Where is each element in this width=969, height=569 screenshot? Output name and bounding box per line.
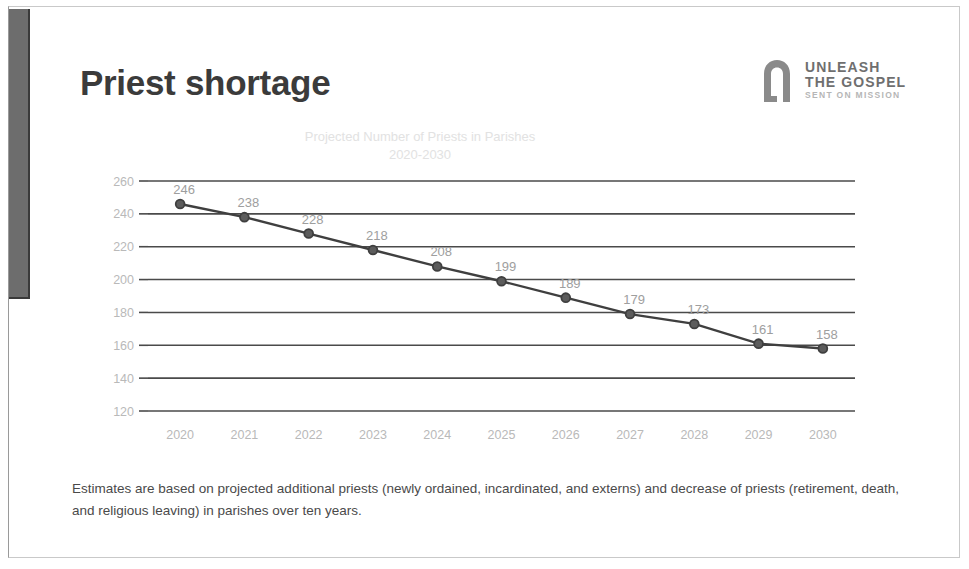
data-point-label: 246 bbox=[173, 182, 195, 197]
data-point-marker bbox=[690, 320, 699, 329]
x-axis-tick-label: 2020 bbox=[166, 428, 194, 442]
slide-canvas: Priest shortage UNLEASH THE GOSPEL SENT … bbox=[0, 0, 969, 569]
logo-tagline: SENT ON MISSION bbox=[805, 91, 906, 100]
data-point-label: 161 bbox=[752, 322, 774, 337]
data-point-marker bbox=[176, 200, 185, 209]
priest-projection-chart: Projected Number of Priests in Parishes … bbox=[100, 128, 870, 448]
data-point-marker bbox=[304, 229, 313, 238]
x-axis-tick-label: 2025 bbox=[488, 428, 516, 442]
data-point-label: 179 bbox=[623, 292, 645, 307]
data-point-marker bbox=[818, 344, 827, 353]
data-point-marker bbox=[433, 262, 442, 271]
x-axis-tick-label: 2027 bbox=[616, 428, 644, 442]
data-point-marker bbox=[561, 293, 570, 302]
data-point-label: 208 bbox=[430, 244, 452, 259]
x-axis-tick-label: 2026 bbox=[552, 428, 580, 442]
chart-caption: Estimates are based on projected additio… bbox=[72, 478, 917, 522]
logo-line-2: THE GOSPEL bbox=[805, 75, 906, 90]
data-point-marker bbox=[754, 339, 763, 348]
chart-plot-area: 2602402202001801601401202020202120222023… bbox=[100, 128, 870, 448]
data-point-marker bbox=[369, 246, 378, 255]
y-axis-tick-label: 180 bbox=[113, 306, 134, 320]
y-axis-tick-label: 200 bbox=[113, 273, 134, 287]
data-point-label: 218 bbox=[366, 228, 388, 243]
data-point-label: 173 bbox=[687, 302, 709, 317]
data-point-marker bbox=[240, 213, 249, 222]
x-axis-tick-label: 2023 bbox=[359, 428, 387, 442]
y-axis-tick-label: 120 bbox=[113, 405, 134, 419]
y-axis-tick-label: 220 bbox=[113, 240, 134, 254]
data-point-marker bbox=[497, 277, 506, 286]
x-axis-tick-label: 2029 bbox=[745, 428, 773, 442]
arch-doorway-icon bbox=[760, 58, 794, 102]
unleash-the-gospel-logo: UNLEASH THE GOSPEL SENT ON MISSION bbox=[760, 58, 906, 102]
page-title: Priest shortage bbox=[80, 63, 330, 103]
y-axis-tick-label: 140 bbox=[113, 372, 134, 386]
y-axis-tick-label: 240 bbox=[113, 207, 134, 221]
x-axis-tick-label: 2021 bbox=[231, 428, 259, 442]
x-axis-tick-label: 2024 bbox=[423, 428, 451, 442]
data-point-label: 189 bbox=[559, 276, 581, 291]
x-axis-tick-label: 2028 bbox=[680, 428, 708, 442]
data-point-label: 228 bbox=[302, 212, 324, 227]
x-axis-tick-label: 2022 bbox=[295, 428, 323, 442]
y-axis-tick-label: 260 bbox=[113, 175, 134, 189]
data-point-label: 158 bbox=[816, 327, 838, 342]
x-axis-tick-label: 2030 bbox=[809, 428, 837, 442]
data-point-label: 199 bbox=[495, 259, 517, 274]
data-point-label: 238 bbox=[238, 195, 260, 210]
logo-line-1: UNLEASH bbox=[805, 60, 906, 75]
data-point-marker bbox=[626, 310, 635, 319]
y-axis-tick-label: 160 bbox=[113, 339, 134, 353]
scan-edge-bar bbox=[9, 9, 30, 299]
logo-wordmark: UNLEASH THE GOSPEL SENT ON MISSION bbox=[805, 60, 906, 100]
